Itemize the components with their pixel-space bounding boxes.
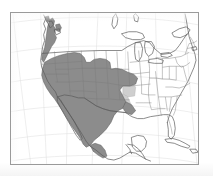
map-canvas — [11, 13, 198, 164]
range-map-figure — [0, 0, 213, 176]
map-frame — [10, 12, 199, 165]
